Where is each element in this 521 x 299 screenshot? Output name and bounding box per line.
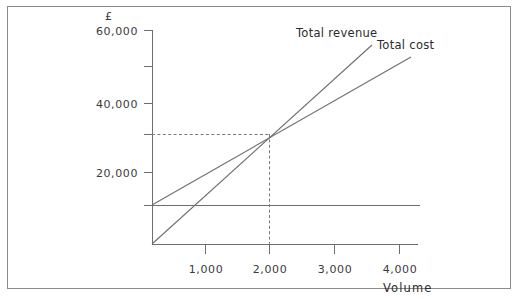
x-tick-label-2000: 2,000 [240, 264, 300, 275]
x-tick-label-4000: 4,000 [370, 264, 430, 275]
figure-root: £ 60,000 40,000 20,000 1,000 2,000 3,000… [0, 0, 521, 299]
x-axis-ticks [206, 244, 400, 254]
x-tick-label-3000: 3,000 [305, 264, 365, 275]
x-tick-label-1000: 1,000 [176, 264, 236, 275]
y-tick-label-60000: 60,000 [78, 26, 138, 37]
break-even-chart-plot [0, 0, 521, 299]
series-label-total-revenue: Total revenue [296, 28, 378, 40]
y-axis-unit-label: £ [105, 11, 113, 22]
total-revenue-line [152, 45, 372, 244]
y-tick-label-40000: 40,000 [78, 99, 138, 110]
y-axis-ticks [144, 31, 153, 206]
y-tick-label-20000: 20,000 [78, 168, 138, 179]
total-cost-line [152, 57, 411, 205]
x-axis-title: Volume [383, 283, 432, 295]
series-label-total-cost: Total cost [377, 40, 434, 52]
